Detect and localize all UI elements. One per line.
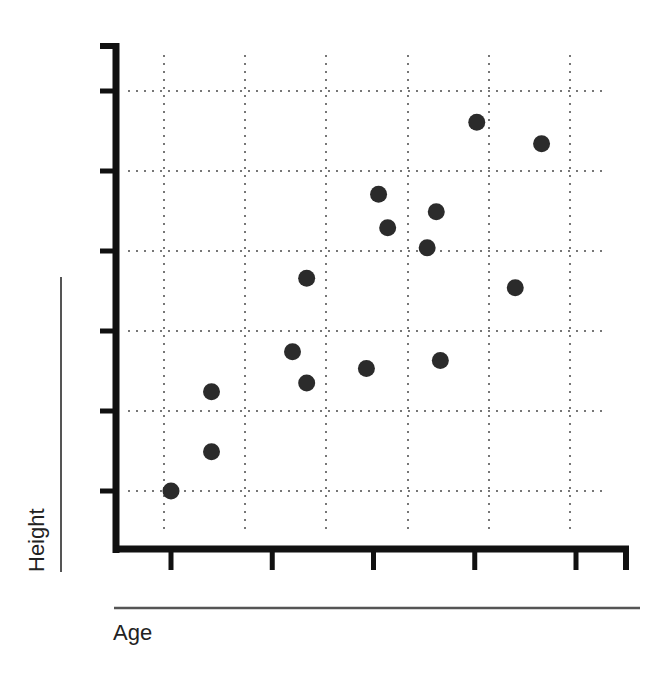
data-point bbox=[533, 135, 550, 152]
data-point bbox=[358, 360, 375, 377]
data-point bbox=[428, 203, 445, 220]
data-point bbox=[432, 352, 449, 369]
data-point bbox=[163, 483, 180, 500]
data-point bbox=[298, 375, 315, 392]
data-point bbox=[370, 186, 387, 203]
data-point bbox=[419, 239, 436, 256]
grid-lines bbox=[128, 55, 606, 534]
data-point bbox=[507, 279, 524, 296]
scatter-chart bbox=[0, 0, 665, 680]
data-point bbox=[298, 270, 315, 287]
data-point bbox=[203, 383, 220, 400]
data-point bbox=[379, 219, 396, 236]
data-point bbox=[203, 443, 220, 460]
x-axis-label: Age bbox=[113, 620, 152, 646]
data-point bbox=[468, 114, 485, 131]
data-points bbox=[163, 114, 551, 500]
data-point bbox=[284, 343, 301, 360]
y-axis-label: Height bbox=[24, 508, 50, 572]
